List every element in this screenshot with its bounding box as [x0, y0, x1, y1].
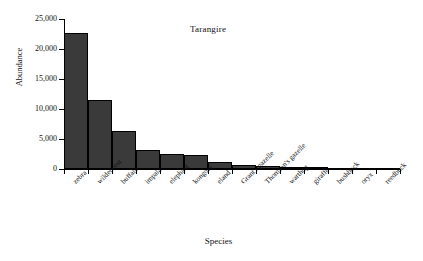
x-category-label: eland: [215, 168, 233, 186]
y-tick-label: 25,000: [5, 14, 57, 23]
x-tick-mark: [376, 170, 377, 174]
bar: [88, 100, 112, 169]
y-tick-label: 15,000: [5, 74, 57, 83]
x-category-label: oryx: [359, 170, 375, 186]
bar-chart-figure: Tarangire Abundance 05,00010,00015,00020…: [0, 0, 423, 261]
y-axis-tick-group: 05,00010,00015,00020,00025,000: [0, 0, 57, 261]
bar: [64, 33, 88, 169]
x-axis-label: Species: [0, 236, 423, 246]
x-tick-mark: [64, 170, 65, 174]
y-tick-label: 0: [5, 164, 57, 173]
y-tick-label: 20,000: [5, 44, 57, 53]
x-axis-label-text: Species: [205, 236, 233, 246]
y-tick-label: 5,000: [5, 134, 57, 143]
plot-area: [64, 19, 400, 169]
x-category-label: zebra: [71, 168, 89, 186]
y-tick-label: 10,000: [5, 104, 57, 113]
